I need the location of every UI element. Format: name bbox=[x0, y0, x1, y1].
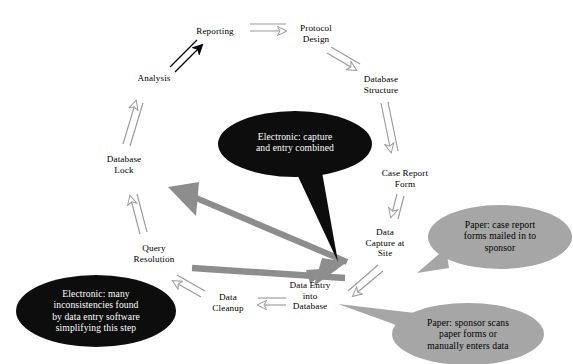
node-data-entry-into-database[interactable]: Data Entry into Database bbox=[289, 280, 330, 312]
arrow-data-cleanup-to-query-resolution bbox=[173, 275, 205, 297]
arrow-analysis-to-reporting bbox=[170, 40, 202, 72]
node-data-cleanup[interactable]: Data Cleanup bbox=[212, 292, 243, 313]
node-query-resolution[interactable]: Query Resolution bbox=[134, 243, 175, 264]
arrow-protocol-design-to-database-structure bbox=[327, 47, 360, 70]
callout-paper-forms-mailed-label: Paper: case report forms mailed in to sp… bbox=[464, 219, 536, 253]
arrow-data-capture-to-data-entry bbox=[348, 265, 383, 296]
arrow-query-resolution-to-database-lock bbox=[130, 194, 147, 234]
arrow-reporting-to-protocol-design bbox=[250, 24, 286, 31]
arrow-data-entry-to-data-cleanup bbox=[258, 298, 286, 305]
diagram-canvas: Reporting Protocol Design Database Struc… bbox=[0, 0, 573, 364]
callout-electronic-inconsistencies-label: Electronic: many inconsistencies found b… bbox=[52, 288, 140, 334]
arrow-database-structure-to-case-report-form bbox=[381, 102, 398, 152]
node-database-lock[interactable]: Database Lock bbox=[107, 154, 141, 175]
callout-electronic-capture-entry-label: Electronic: capture and entry combined bbox=[256, 131, 334, 154]
node-case-report-form[interactable]: Case Report Form bbox=[382, 168, 428, 189]
node-reporting[interactable]: Reporting bbox=[196, 26, 234, 37]
callout-paper-sponsor-scans-label: Paper: sponsor scans paper forms or manu… bbox=[427, 317, 509, 351]
arrow-database-lock-to-analysis bbox=[123, 101, 143, 146]
arrow-case-report-form-to-data-capture-at-site bbox=[391, 194, 404, 219]
node-analysis[interactable]: Analysis bbox=[138, 73, 171, 84]
node-protocol-design[interactable]: Protocol Design bbox=[300, 23, 332, 44]
node-data-capture-at-site[interactable]: Data Capture at Site bbox=[365, 227, 404, 259]
node-database-structure[interactable]: Database Structure bbox=[364, 74, 399, 95]
